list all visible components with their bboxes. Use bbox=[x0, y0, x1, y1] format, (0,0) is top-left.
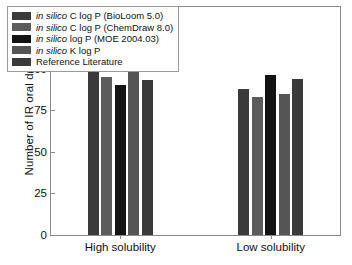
bar bbox=[115, 85, 126, 235]
chart-legend: in silico C log P (BioLoom 5.0)in silico… bbox=[7, 6, 179, 72]
bar bbox=[265, 75, 276, 235]
legend-swatch bbox=[12, 12, 31, 20]
bar bbox=[88, 70, 99, 235]
legend-swatch bbox=[12, 46, 31, 54]
bar bbox=[142, 80, 153, 235]
bar-chart-figure: Number of IR oral drugs 0255075100125 in… bbox=[0, 0, 352, 265]
bar bbox=[292, 79, 303, 235]
y-axis-tick-label: 0 bbox=[41, 229, 51, 241]
x-axis-category-label: High solubility bbox=[85, 241, 156, 253]
y-axis-tick-mark bbox=[51, 235, 55, 236]
bar bbox=[128, 67, 139, 235]
bar bbox=[101, 77, 112, 235]
y-axis-tick: 50 bbox=[34, 146, 51, 158]
y-axis-tick-mark bbox=[51, 110, 55, 111]
legend-item: in silico C log P (ChemDraw 8.0) bbox=[12, 22, 173, 33]
legend-swatch bbox=[12, 35, 31, 43]
y-axis-tick-mark bbox=[51, 152, 55, 153]
legend-item: Reference Literature bbox=[12, 56, 173, 67]
legend-label: in silico C log P (BioLoom 5.0) bbox=[36, 10, 163, 21]
y-axis-tick-label: 25 bbox=[34, 187, 51, 199]
x-axis-tick-mark bbox=[271, 235, 272, 239]
legend-label: in silico log P (MOE 2004.03) bbox=[36, 33, 159, 44]
y-axis-tick: 0 bbox=[41, 229, 51, 241]
legend-label: in silico K log P bbox=[36, 45, 100, 56]
bar bbox=[279, 94, 290, 235]
y-axis-tick-label: 50 bbox=[34, 146, 51, 158]
y-axis-tick-label: 75 bbox=[34, 104, 51, 116]
bar bbox=[252, 97, 263, 235]
x-axis-category-label: Low solubility bbox=[237, 241, 305, 253]
y-axis-tick: 25 bbox=[34, 187, 51, 199]
legend-item: in silico log P (MOE 2004.03) bbox=[12, 33, 173, 44]
bar bbox=[238, 89, 249, 235]
y-axis-tick-mark bbox=[51, 193, 55, 194]
x-axis-tick-mark bbox=[120, 235, 121, 239]
legend-label: Reference Literature bbox=[36, 56, 123, 67]
legend-swatch bbox=[12, 58, 31, 66]
legend-label: in silico C log P (ChemDraw 8.0) bbox=[36, 22, 173, 33]
legend-item: in silico K log P bbox=[12, 45, 173, 56]
legend-swatch bbox=[12, 23, 31, 31]
legend-item: in silico C log P (BioLoom 5.0) bbox=[12, 10, 173, 21]
y-axis-tick: 75 bbox=[34, 104, 51, 116]
